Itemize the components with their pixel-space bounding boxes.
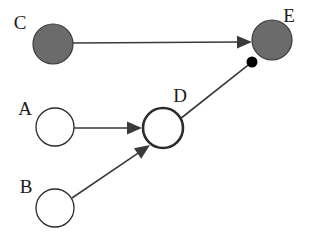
node-label-e: E [283,5,295,26]
node-a-circle[interactable] [36,108,74,146]
node-b[interactable] [36,189,74,227]
node-a[interactable] [36,108,74,146]
edge-d-to-e-ball-terminator [247,57,258,68]
node-c-circle[interactable] [33,24,73,64]
node-label-b: B [20,176,33,197]
node-label-a: A [18,98,32,119]
node-label-c: C [14,12,27,33]
node-b-circle[interactable] [36,189,74,227]
node-d-circle[interactable] [143,108,183,148]
node-d[interactable] [143,108,183,148]
diagram-canvas: C E A D B [0,0,310,243]
edge-c-to-e-line [73,42,240,43]
graph-svg: C E A D B [0,0,310,243]
node-label-d: D [173,85,187,106]
node-c[interactable] [33,24,73,64]
